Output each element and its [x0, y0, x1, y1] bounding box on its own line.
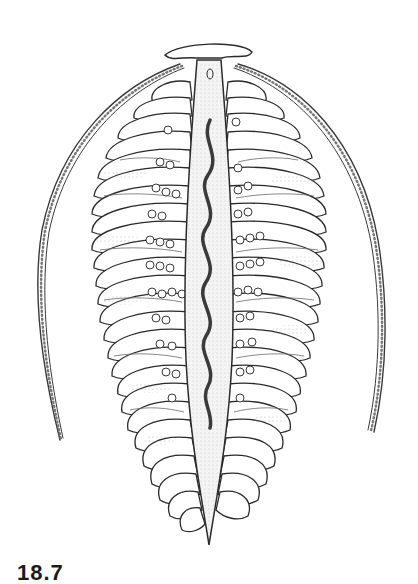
- apical-crossbar: [165, 44, 252, 58]
- figure-number: 18.7: [17, 562, 64, 584]
